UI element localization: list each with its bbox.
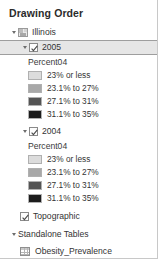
layer-tree: Illinois 2005 Percent04 23% or less 23.1…: [0, 25, 157, 259]
tree-item-label: 2004: [42, 127, 61, 136]
legend-swatch: [28, 181, 42, 190]
contents-panel: Drawing Order Illinois 2005 Percent04 23…: [0, 0, 158, 259]
legend-class-label: 27.1% to 31%: [47, 97, 99, 105]
layer-visibility-checkbox[interactable]: [29, 43, 38, 52]
legend-class-row[interactable]: 31.1% to 35%: [0, 108, 157, 121]
collapse-triangle-icon[interactable]: [9, 227, 18, 242]
tree-item-label: Topographic: [33, 212, 80, 221]
tree-item-standalone-tables[interactable]: Standalone Tables: [0, 227, 157, 242]
legend-swatch: [28, 194, 42, 203]
tree-item-table-obesity-prevalence[interactable]: Obesity_Prevalence: [0, 244, 157, 259]
legend-class-row[interactable]: 23.1% to 27%: [0, 82, 157, 95]
tree-item-layer-2005[interactable]: 2005: [0, 40, 157, 55]
tree-item-layer-2004[interactable]: 2004: [0, 124, 157, 139]
legend-swatch: [28, 84, 42, 93]
legend-class-row[interactable]: 27.1% to 31%: [0, 95, 157, 108]
tree-item-label: Standalone Tables: [18, 230, 89, 239]
tree-item-label: Obesity_Prevalence: [35, 247, 112, 256]
layer-visibility-checkbox[interactable]: [29, 127, 38, 136]
tree-item-label: 2005: [42, 43, 61, 52]
legend-class-row[interactable]: 23% or less: [0, 153, 157, 166]
legend-class-row[interactable]: 27.1% to 31%: [0, 179, 157, 192]
legend-swatch: [28, 71, 42, 80]
legend-field-name-2004: Percent04: [0, 139, 157, 153]
legend-class-label: 23.1% to 27%: [47, 84, 99, 92]
legend-field-name-2005: Percent04: [0, 55, 157, 69]
legend-class-label: 23.1% to 27%: [47, 168, 99, 176]
table-icon: [20, 247, 30, 256]
legend-class-label: 23% or less: [47, 155, 90, 163]
legend-swatch: [28, 168, 42, 177]
legend-class-label: 27.1% to 31%: [47, 181, 99, 189]
legend-class-row[interactable]: 31.1% to 35%: [0, 192, 157, 205]
collapse-triangle-icon[interactable]: [9, 25, 18, 40]
tree-item-basemap-topographic[interactable]: Topographic: [0, 209, 157, 224]
tree-item-map-illinois[interactable]: Illinois: [0, 25, 157, 40]
legend-class-label: 31.1% to 35%: [47, 194, 99, 202]
legend-class-row[interactable]: 23.1% to 27%: [0, 166, 157, 179]
map-layers-icon: [18, 28, 28, 37]
panel-title: Drawing Order: [0, 0, 157, 25]
tree-item-label: Illinois: [32, 28, 56, 37]
legend-swatch: [28, 97, 42, 106]
legend-class-label: 31.1% to 35%: [47, 110, 99, 118]
legend-swatch: [28, 155, 42, 164]
legend-class-row[interactable]: 23% or less: [0, 69, 157, 82]
legend-class-label: 23% or less: [47, 71, 90, 79]
collapse-triangle-icon[interactable]: [20, 40, 29, 55]
basemap-visibility-checkbox[interactable]: [20, 212, 29, 221]
collapse-triangle-icon[interactable]: [20, 124, 29, 139]
legend-swatch: [28, 110, 42, 119]
